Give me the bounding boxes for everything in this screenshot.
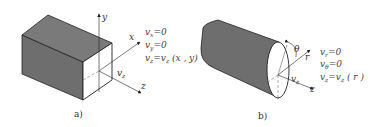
equation-vr: vr=0	[320, 47, 342, 58]
equation-vtheta: vθ=0	[320, 59, 342, 70]
flow-diagram: y x z vz vx=0 vy=0 vz=vz (x , y) a) θ r …	[0, 0, 374, 127]
velocity-label-b: vz	[291, 74, 300, 85]
z-axis-label-b: z	[309, 84, 315, 94]
caption-b: b)	[258, 111, 267, 121]
equation-vz: vz=vz (x , y)	[145, 53, 198, 64]
equation-vx: vx=0	[145, 27, 167, 38]
velocity-label: vz	[117, 68, 126, 79]
caption-a: a)	[74, 109, 83, 119]
x-axis-label: x	[129, 32, 134, 42]
z-axis-label: z	[140, 81, 146, 91]
equations-b: vr=0 vθ=0 vz=vz ( r )	[320, 47, 364, 83]
panel-a: y x z vz vx=0 vy=0 vz=vz (x , y) a)	[22, 12, 198, 119]
pipe-body	[201, 20, 279, 98]
equation-vy: vy=0	[145, 40, 167, 52]
equation-vz-b: vz=vz ( r )	[320, 72, 364, 83]
r-axis-label: r	[305, 52, 310, 62]
equations-a: vx=0 vy=0 vz=vz (x , y)	[145, 27, 198, 64]
y-axis-label: y	[101, 12, 108, 22]
theta-label: θ	[294, 44, 300, 54]
pipe-cross-section	[267, 42, 289, 98]
panel-b: θ r z vz vr=0 vθ=0 vz=vz ( r ) b)	[201, 20, 365, 121]
